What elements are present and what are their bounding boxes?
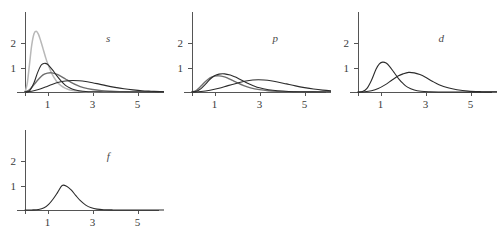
panel-label-f: f [107, 150, 112, 162]
curve-4d [358, 72, 497, 92]
x-tick-label-5: 5 [302, 98, 308, 110]
panel-f: 13512f [0, 118, 164, 233]
curve-4f [25, 185, 164, 210]
y-tick-label-2: 2 [344, 37, 350, 49]
x-tick-label-5: 5 [468, 98, 474, 110]
plot-area-d: 13512d [333, 0, 497, 115]
plot-area-p: 13512p [167, 0, 331, 115]
panel-label-d: d [439, 32, 445, 44]
curve-3s [25, 63, 164, 92]
x-tick-label-5: 5 [135, 98, 141, 110]
radial-distribution-figure: 13512s13512p13512d13512f [0, 0, 499, 245]
x-tick-label-1: 1 [45, 216, 51, 228]
panel-d: 13512d [333, 0, 497, 115]
x-tick-label-1: 1 [378, 98, 384, 110]
x-tick-label-3: 3 [90, 216, 96, 228]
plot-area-s: 13512s [0, 0, 164, 115]
x-tick-label-3: 3 [423, 98, 429, 110]
y-tick-label-2: 2 [11, 155, 17, 167]
panel-label-s: s [106, 32, 110, 44]
panel-p: 13512p [167, 0, 331, 115]
panel-s: 13512s [0, 0, 164, 115]
plot-area-f: 13512f [0, 118, 164, 233]
y-tick-label-2: 2 [178, 37, 184, 49]
x-tick-label-3: 3 [90, 98, 96, 110]
x-tick-label-1: 1 [212, 98, 218, 110]
curve-2s [25, 73, 164, 92]
y-tick-label-2: 2 [11, 37, 17, 49]
x-tick-label-1: 1 [45, 98, 51, 110]
x-tick-label-5: 5 [135, 216, 141, 228]
y-tick-label-1: 1 [11, 62, 17, 74]
curve-3d [358, 62, 497, 92]
y-tick-label-1: 1 [344, 62, 350, 74]
y-tick-label-1: 1 [11, 180, 17, 192]
y-tick-label-1: 1 [178, 62, 184, 74]
panel-label-p: p [272, 32, 279, 44]
x-tick-label-3: 3 [257, 98, 263, 110]
